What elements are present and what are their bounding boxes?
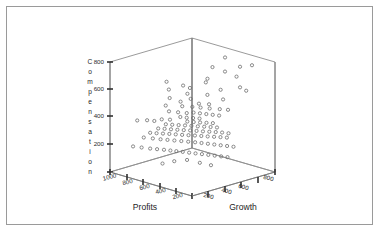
data-point: [200, 141, 203, 144]
data-point: [206, 135, 209, 138]
data-point: [185, 111, 188, 114]
z-title-char: a: [88, 128, 92, 135]
data-points-layer: [131, 56, 253, 167]
y-tick-label: 600: [238, 182, 250, 191]
data-point: [173, 160, 176, 163]
data-point: [206, 77, 209, 80]
data-point: [155, 132, 158, 135]
data-point: [197, 102, 200, 105]
z-tick-label: 800: [94, 58, 105, 65]
data-point: [160, 118, 163, 121]
data-point: [219, 144, 222, 147]
data-point: [206, 93, 209, 96]
data-point: [136, 119, 139, 122]
z-title-char: s: [88, 118, 92, 125]
x-tick-label: 200: [172, 191, 184, 200]
y-tick-label: 400: [221, 186, 233, 195]
data-point: [204, 81, 207, 84]
data-point: [174, 133, 177, 136]
data-point: [199, 106, 202, 109]
data-point: [149, 147, 152, 150]
data-point: [187, 140, 190, 143]
data-point: [223, 56, 226, 59]
data-point: [219, 136, 222, 139]
data-point: [207, 103, 210, 106]
data-point: [211, 66, 214, 69]
data-point: [169, 128, 172, 131]
data-point: [176, 128, 179, 131]
z-title-char: t: [89, 138, 91, 145]
z-tick-label: 200: [94, 140, 105, 147]
data-point: [187, 134, 190, 137]
data-point: [185, 158, 188, 161]
data-point: [189, 129, 192, 132]
data-point: [219, 88, 222, 91]
data-point: [205, 112, 208, 115]
data-point: [159, 138, 162, 141]
data-point: [227, 132, 230, 135]
data-point: [218, 108, 221, 111]
data-point: [168, 118, 171, 121]
data-point: [192, 120, 195, 123]
data-point: [218, 114, 221, 117]
data-point: [209, 164, 212, 167]
data-point: [164, 104, 167, 107]
data-point: [186, 92, 189, 95]
data-point: [214, 130, 217, 133]
z-title-char: n: [88, 108, 92, 115]
data-point: [161, 132, 164, 135]
z-title-char: o: [88, 158, 92, 165]
data-point: [205, 121, 208, 124]
z-title-char: e: [88, 98, 92, 105]
data-point: [155, 148, 158, 151]
data-point: [168, 96, 171, 99]
data-point: [211, 113, 214, 116]
data-point: [194, 141, 197, 144]
data-point: [238, 86, 241, 89]
data-point: [250, 64, 253, 67]
data-point: [221, 98, 224, 101]
data-point: [196, 125, 199, 128]
data-point: [195, 129, 198, 132]
data-point: [185, 116, 188, 119]
data-point: [182, 84, 185, 87]
data-point: [169, 149, 172, 152]
floor-plane: [110, 148, 275, 196]
z-title-char: o: [88, 68, 92, 75]
data-point: [200, 134, 203, 137]
data-point: [163, 127, 166, 130]
data-point: [201, 130, 204, 133]
data-point: [149, 131, 152, 134]
data-point: [235, 75, 238, 78]
data-point: [168, 132, 171, 135]
y-tick-label: 800: [263, 173, 275, 182]
x-tick-label: 400: [155, 186, 167, 195]
z-tick-label: 600: [94, 85, 105, 92]
data-point: [166, 138, 169, 141]
data-point: [209, 125, 212, 128]
z-axis: [107, 62, 113, 172]
data-point: [167, 110, 170, 113]
data-point: [225, 136, 228, 139]
data-point: [181, 105, 184, 108]
data-point: [208, 130, 211, 133]
data-point: [153, 119, 156, 122]
z-title-char: C: [88, 58, 93, 65]
data-point: [194, 152, 197, 155]
data-point: [208, 107, 211, 110]
z-axis-title: C o m p e n s a t i o n: [87, 58, 93, 175]
y-axis-title: Growth: [229, 202, 257, 212]
z-title-char: m: [87, 78, 93, 85]
z-title-char: n: [88, 168, 92, 175]
data-point: [177, 123, 180, 126]
data-point: [198, 112, 201, 115]
data-point: [146, 119, 149, 122]
data-point: [215, 126, 218, 129]
data-point: [180, 139, 183, 142]
data-point: [179, 115, 182, 118]
data-point: [176, 111, 179, 114]
data-point: [140, 146, 143, 149]
data-point: [212, 135, 215, 138]
data-point: [221, 131, 224, 134]
data-point: [193, 134, 196, 137]
